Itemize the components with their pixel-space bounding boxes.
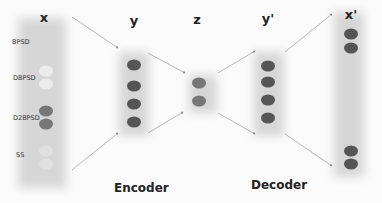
node-d2bpsd-2 [39,119,53,130]
encoder-caption: Encoder [114,181,169,195]
input-label-dbpsd: DBPSD [13,74,36,82]
input-label-d2bpsd: D2BPSD [13,114,40,122]
y-layer-title: y [130,13,138,28]
connection-arrows [0,0,382,203]
node-y-prime-4 [261,113,275,124]
z-layer-title: z [193,12,201,27]
node-x-prime-1 [344,29,358,40]
decoder-caption: Decoder [251,178,307,192]
node-x-prime-2 [344,43,358,54]
node-z-1 [192,78,206,89]
node-y-prime-1 [261,61,275,72]
node-z-2 [192,96,206,107]
input-label-bpsd: BPSD [12,38,30,46]
node-ss-1 [39,146,53,157]
x-layer-title: x [40,10,48,25]
node-ss-2 [39,159,53,170]
node-y-prime-2 [261,77,275,88]
node-y-prime-3 [261,95,275,106]
node-y-3 [127,99,141,110]
node-y-2 [127,81,141,92]
node-dbpsd-1 [39,66,53,77]
node-y-1 [127,60,141,71]
node-y-4 [127,117,141,128]
node-x-prime-4 [344,159,358,170]
input-label-ss: SS [16,151,24,159]
x-prime-layer-title: x' [345,7,357,22]
node-d2bpsd-1 [39,106,53,117]
y-prime-layer-title: y' [262,11,274,26]
node-x-prime-3 [344,146,358,157]
node-dbpsd-2 [39,79,53,90]
